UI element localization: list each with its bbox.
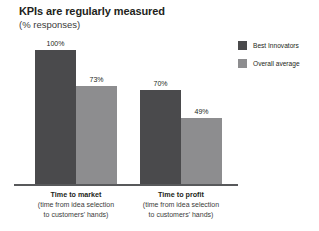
bar-time-to-profit-overall-average [181, 118, 222, 184]
bar-time-to-market-overall-average [76, 86, 117, 184]
category-sub-time-to-profit-line2: to customers' hands) [111, 210, 251, 220]
category-title-time-to-profit: Time to profit [111, 190, 251, 200]
bar-time-to-market-best-innovators [35, 50, 76, 184]
bar-value-time-to-market-overall-average: 73% [76, 76, 117, 83]
bar-value-time-to-profit-overall-average: 49% [181, 108, 222, 115]
category-label-time-to-profit: Time to profit (time from idea selection… [111, 190, 251, 219]
bar-chart-figure: KPIs are regularly measured (% responses… [0, 0, 319, 231]
plot-area: 100% 73% 70% 49% Time to market (time fr… [0, 0, 319, 231]
x-axis-baseline [14, 184, 238, 186]
bar-value-time-to-market-best-innovators: 100% [35, 40, 76, 47]
bar-value-time-to-profit-best-innovators: 70% [140, 80, 181, 87]
bar-time-to-profit-best-innovators [140, 90, 181, 184]
category-sub-time-to-profit-line1: (time from idea selection [111, 200, 251, 210]
